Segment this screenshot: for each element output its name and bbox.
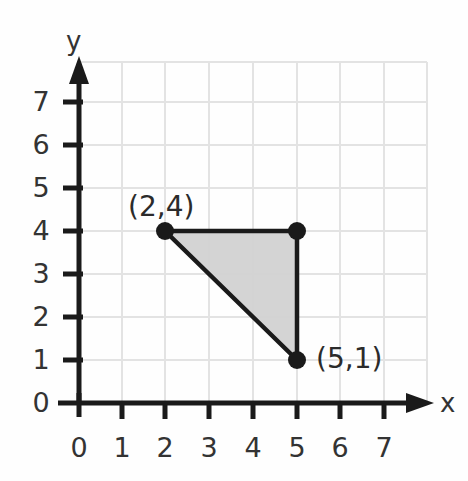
x-tick-label-4: 4 xyxy=(238,434,268,461)
x-tick-label-3: 3 xyxy=(194,434,224,461)
y-tick-label-3: 3 xyxy=(26,260,56,287)
y-tick-label-5: 5 xyxy=(26,174,56,201)
x-axis-line xyxy=(58,393,434,413)
x-tick-label-7: 7 xyxy=(369,434,399,461)
vertex-label-5-1: (5,1) xyxy=(316,345,382,373)
y-axis-label: y xyxy=(66,28,81,54)
chart-canvas: y x 0 1 2 3 4 5 6 7 0 1 2 3 4 5 6 7 (2,4… xyxy=(0,0,468,481)
x-axis-arrow-icon xyxy=(406,393,434,413)
x-axis-label: x xyxy=(440,390,455,416)
x-tick-label-5: 5 xyxy=(282,434,312,461)
y-axis-arrow-icon xyxy=(69,56,89,84)
vertex-label-2-4: (2,4) xyxy=(128,193,194,221)
x-axis-ticks xyxy=(79,393,384,419)
x-tick-label-2: 2 xyxy=(150,434,180,461)
vertex-point-2-4 xyxy=(156,222,174,240)
x-tick-label-6: 6 xyxy=(325,434,355,461)
x-tick-label-1: 1 xyxy=(107,434,137,461)
y-tick-label-7: 7 xyxy=(26,88,56,115)
y-tick-label-6: 6 xyxy=(26,131,56,158)
origin-label: 0 xyxy=(26,389,56,416)
y-tick-label-2: 2 xyxy=(26,303,56,330)
vertex-point-5-4 xyxy=(288,222,306,240)
vertex-point-5-1 xyxy=(288,351,306,369)
y-tick-label-1: 1 xyxy=(26,346,56,373)
x-tick-label-0: 0 xyxy=(64,434,94,461)
y-tick-label-4: 4 xyxy=(26,217,56,244)
coordinate-plane-svg xyxy=(0,0,468,481)
